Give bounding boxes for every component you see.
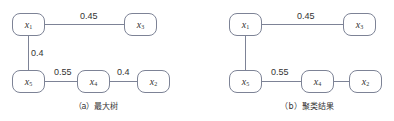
node-sub: 4 [94, 81, 97, 87]
node-a-x5: x5 [12, 70, 45, 93]
node-sub: 3 [141, 24, 144, 30]
node-sub: 1 [29, 24, 32, 30]
node-b-x5: x5 [229, 70, 262, 93]
node-sub: 5 [246, 81, 249, 87]
node-b-x1: x1 [229, 13, 262, 36]
edge-weight-a-x1-x5: 0.4 [31, 48, 44, 58]
node-sub: 2 [366, 81, 369, 87]
edge-weight-a-x5-x4: 0.55 [54, 67, 72, 77]
caption-a: （a）最大树 [74, 100, 119, 111]
node-sub: 1 [246, 24, 249, 30]
caption-b: （b）聚类结果 [280, 100, 333, 111]
node-b-x3: x3 [343, 13, 376, 36]
edge-weight-b-x5-x4: 0.55 [271, 67, 289, 77]
edge-layer [0, 0, 394, 121]
edge-weight-a-x1-x3: 0.45 [80, 11, 98, 21]
node-sub: 4 [318, 81, 321, 87]
node-sub: 2 [154, 81, 157, 87]
node-b-x4: x4 [301, 70, 334, 93]
node-a-x4: x4 [77, 70, 110, 93]
node-sub: 5 [29, 81, 32, 87]
node-sub: 3 [360, 24, 363, 30]
edge-weight-b-x1-x3: 0.45 [297, 11, 315, 21]
edge-weight-a-x4-x2: 0.4 [117, 67, 130, 77]
node-a-x3: x3 [124, 13, 157, 36]
node-b-x2: x2 [349, 70, 382, 93]
node-a-x2: x2 [137, 70, 170, 93]
node-a-x1: x1 [12, 13, 45, 36]
